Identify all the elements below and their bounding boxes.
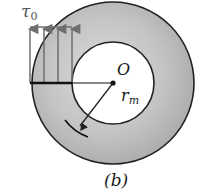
mean-radius-label: rm — [121, 88, 139, 106]
center-label: O — [117, 62, 130, 78]
annular-shaft-diagram — [0, 0, 210, 193]
stress-label: τ0 — [21, 3, 37, 22]
figure-caption: (b) — [104, 172, 128, 189]
